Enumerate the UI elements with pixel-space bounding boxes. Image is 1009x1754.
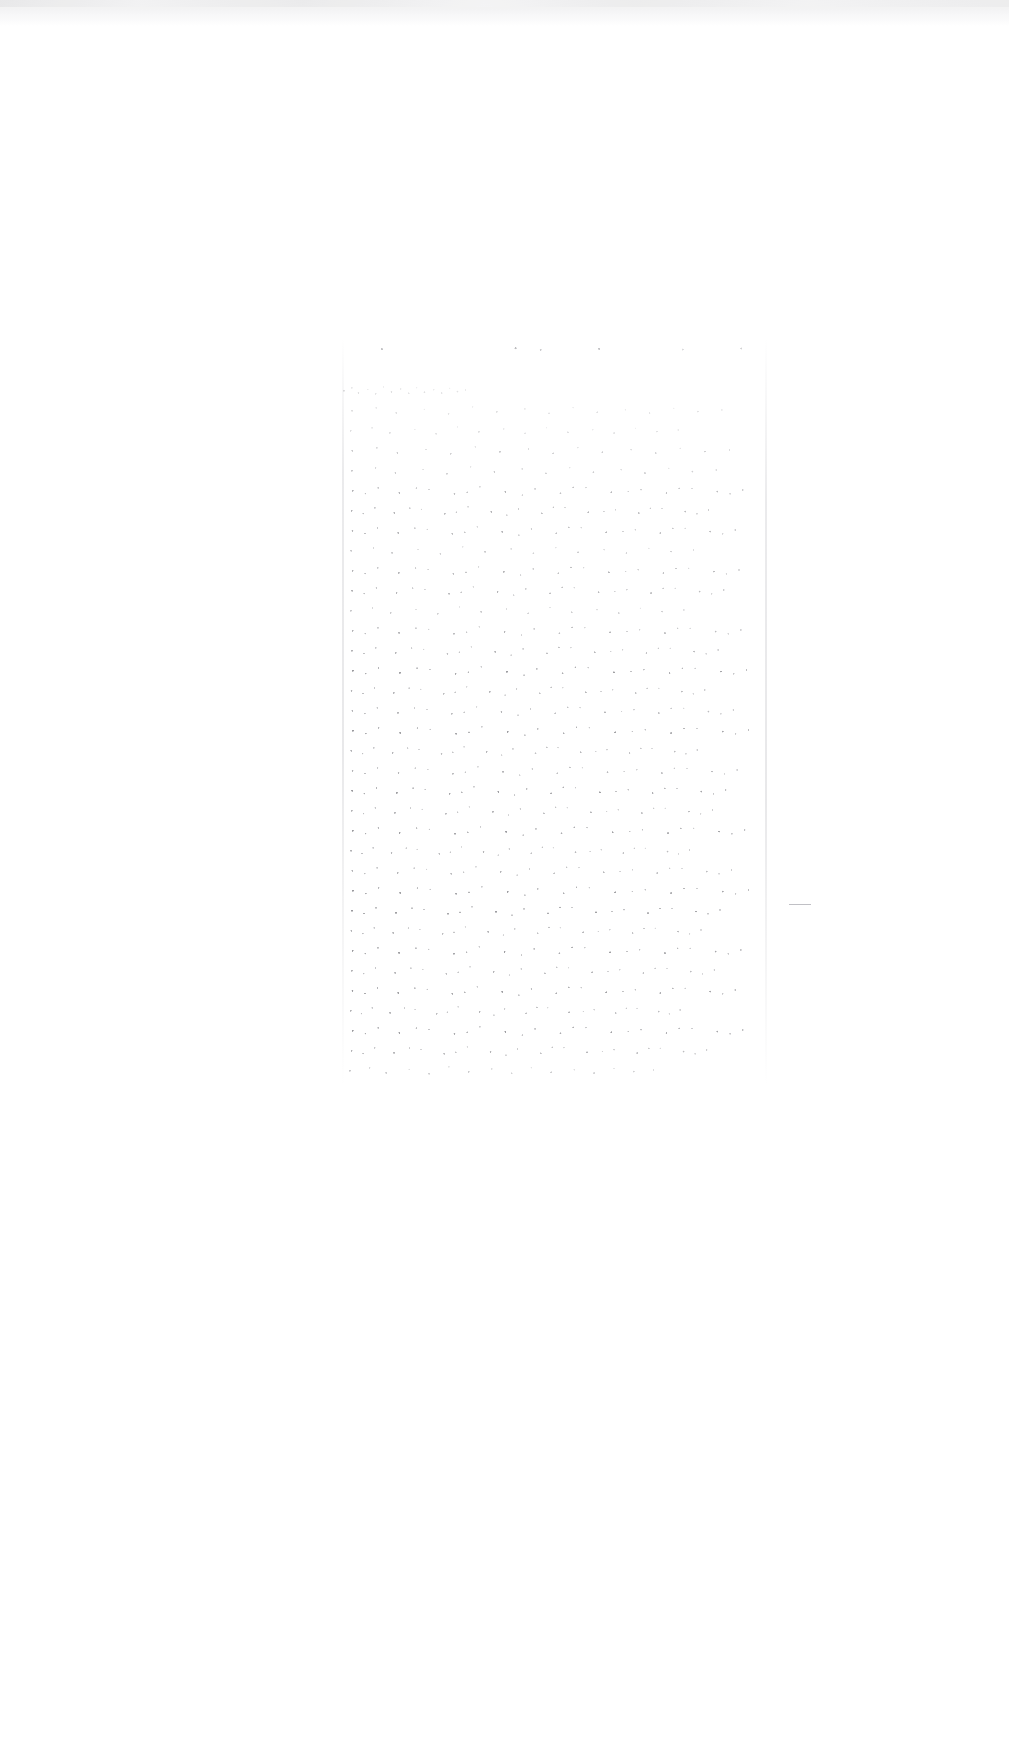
faded-text-line	[340, 384, 472, 397]
faded-text-line	[340, 624, 762, 637]
faded-text-line	[340, 524, 756, 537]
residual-ink-speckle	[340, 744, 716, 757]
faded-text-line	[340, 444, 750, 457]
faded-text-line	[340, 484, 764, 497]
faded-text-line	[340, 864, 752, 877]
faded-text-line	[340, 964, 734, 977]
residual-ink-speckle	[340, 984, 756, 997]
residual-ink-speckle	[340, 964, 734, 977]
faded-text-line	[340, 584, 744, 597]
residual-ink-speckle	[340, 944, 762, 957]
residual-ink-speckle	[340, 704, 754, 717]
residual-ink-speckle	[340, 404, 742, 417]
faded-text-line	[340, 404, 742, 417]
faded-text-line	[340, 904, 740, 917]
residual-ink-speckle	[340, 504, 728, 517]
residual-ink-speckle	[340, 342, 758, 355]
faded-text-line	[340, 804, 732, 817]
residual-ink-speckle	[340, 824, 766, 837]
residual-ink-speckle	[340, 464, 736, 477]
residual-ink-speckle	[340, 884, 770, 897]
residual-ink-speckle	[340, 844, 708, 857]
faded-text-line	[340, 944, 762, 957]
residual-ink-speckle	[340, 1024, 764, 1037]
residual-ink-speckle	[340, 904, 740, 917]
faded-text-line	[340, 424, 696, 437]
residual-ink-speckle	[340, 544, 712, 557]
faded-text-line	[340, 644, 738, 657]
faded-text-line	[340, 844, 708, 857]
faded-text-line	[340, 724, 770, 737]
residual-ink-speckle	[340, 524, 756, 537]
residual-ink-speckle	[340, 1004, 698, 1017]
residual-ink-speckle	[340, 424, 696, 437]
faded-text-line	[340, 604, 702, 617]
faded-text-line	[340, 1024, 764, 1037]
residual-ink-speckle	[340, 384, 472, 397]
residual-ink-stroke	[789, 904, 811, 905]
faded-text-line	[340, 464, 736, 477]
residual-ink-speckle	[340, 924, 720, 937]
faded-text-line	[340, 784, 746, 797]
residual-ink-speckle	[340, 1044, 726, 1057]
faded-text-line	[340, 504, 728, 517]
residual-ink-speckle	[340, 764, 758, 777]
residual-ink-speckle	[340, 624, 762, 637]
faded-text-line	[340, 684, 724, 697]
faded-text-line	[340, 544, 712, 557]
residual-ink-speckle	[340, 724, 770, 737]
residual-ink-speckle	[340, 664, 768, 677]
faded-heading-line	[340, 342, 758, 355]
residual-ink-speckle	[340, 564, 760, 577]
faded-text-line	[340, 1044, 726, 1057]
residual-ink-speckle	[340, 484, 764, 497]
document-text-block	[340, 338, 770, 1086]
residual-ink-speckle	[340, 864, 752, 877]
right-margin-trace	[765, 338, 767, 1086]
faded-text-line	[340, 764, 758, 777]
residual-ink-speckle	[340, 444, 750, 457]
faded-text-line	[340, 704, 754, 717]
residual-ink-speckle	[340, 784, 746, 797]
faded-text-line	[340, 824, 766, 837]
scanner-edge-band-artifact	[0, 0, 1009, 26]
residual-ink-speckle	[340, 644, 738, 657]
faded-text-line	[340, 884, 770, 897]
faded-text-line	[340, 924, 720, 937]
faded-text-line	[340, 664, 768, 677]
faded-text-line	[340, 1004, 698, 1017]
faded-text-line	[340, 1064, 670, 1077]
residual-ink-speckle	[340, 684, 724, 697]
residual-ink-speckle	[340, 604, 702, 617]
faded-text-line	[340, 564, 760, 577]
faded-text-line	[340, 744, 716, 757]
residual-ink-speckle	[340, 1064, 670, 1077]
residual-ink-speckle	[340, 584, 744, 597]
faded-text-line	[340, 984, 756, 997]
residual-ink-speckle	[340, 804, 732, 817]
scanned-page: No characters are recoverable at any mag…	[0, 0, 1009, 1754]
